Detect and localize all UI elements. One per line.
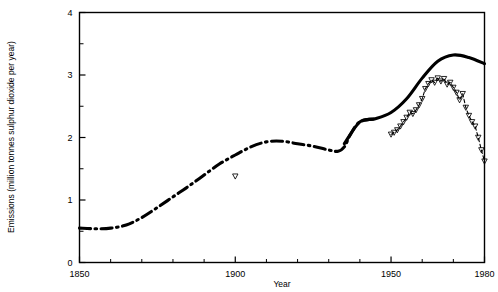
y-axis-title: Emissions (million tonnes sulphur dioxid…	[6, 41, 16, 233]
y-axis-tick-labels: 01234	[67, 8, 72, 268]
x-tick-label-1850: 1850	[69, 269, 89, 279]
series-measured-markers	[233, 76, 488, 179]
y-tick-label-0: 0	[67, 258, 72, 268]
plot-frame	[80, 13, 485, 263]
x-axis-major-ticks	[80, 257, 485, 263]
x-tick-label-1950: 1950	[381, 269, 401, 279]
y-tick-label-2: 2	[67, 133, 72, 143]
y-tick-label-4: 4	[67, 8, 72, 18]
x-tick-label-1900: 1900	[225, 269, 245, 279]
y-tick-label-1: 1	[67, 195, 72, 205]
data-point-marker	[466, 113, 471, 118]
y-axis-major-ticks	[80, 13, 86, 263]
emissions-line-chart: 1850190019501980 01234 Year Emissions (m…	[0, 0, 498, 292]
x-axis-tick-labels: 1850190019501980	[69, 269, 494, 279]
data-point-marker	[233, 174, 238, 179]
chart-container: 1850190019501980 01234 Year Emissions (m…	[0, 0, 498, 292]
x-tick-label-1980: 1980	[474, 269, 494, 279]
y-tick-label-3: 3	[67, 70, 72, 80]
data-point-marker	[457, 98, 462, 103]
x-axis-title: Year	[273, 279, 290, 289]
series-estimated-dashdot-line	[80, 119, 376, 229]
